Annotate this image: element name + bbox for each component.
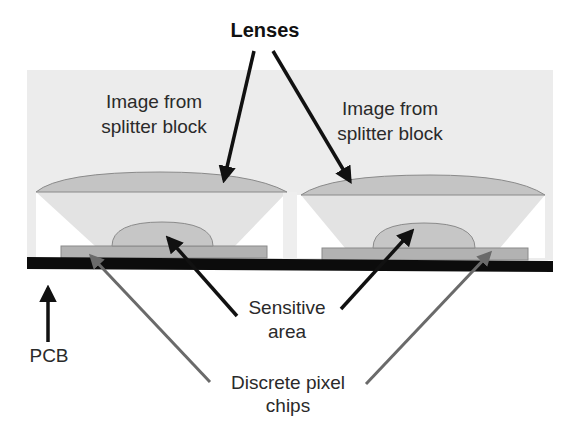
unit-gap-strip	[283, 192, 297, 258]
optical-sensor-diagram: Lenses Image from splitter block Image f…	[0, 0, 574, 434]
chip-arrow-right	[366, 253, 490, 384]
image-label-left-line2: splitter block	[101, 116, 207, 137]
lenses-label: Lenses	[231, 19, 300, 41]
image-label-right-line2: splitter block	[337, 123, 443, 144]
chips-label-line2: chips	[266, 395, 310, 416]
chips-label-line1: Discrete pixel	[231, 372, 345, 393]
sensitive-label-line2: area	[268, 321, 306, 342]
chip-arrow-left	[91, 256, 210, 382]
pixel-chip-right	[322, 248, 528, 260]
image-label-right-line1: Image from	[342, 98, 438, 119]
pcb-label: PCB	[29, 345, 68, 366]
image-label-left-line1: Image from	[106, 91, 202, 112]
sensitive-label-line1: Sensitive	[248, 297, 325, 318]
